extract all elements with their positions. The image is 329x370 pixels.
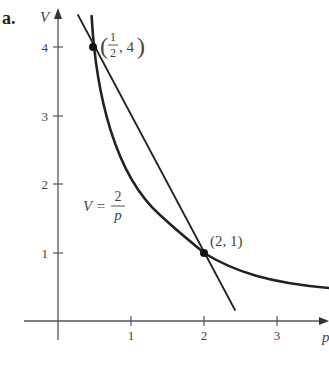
secant-line — [78, 15, 235, 310]
x-axis-label: p — [321, 329, 329, 345]
x-axis-arrow-icon — [319, 317, 329, 325]
svg-text:(: ( — [100, 33, 108, 59]
x-tick-label-3: 3 — [274, 328, 281, 343]
point-label-half-4: ( 1 2 , 4 ) — [100, 30, 145, 60]
x-tick-label-2: 2 — [201, 328, 208, 343]
curve-equation-label: V = 2 p — [83, 189, 125, 223]
point-half-4 — [89, 43, 97, 51]
svg-text:2: 2 — [110, 46, 116, 60]
y-tick-label-2: 2 — [42, 177, 49, 192]
chart: 1 2 3 1 2 3 4 V p ( 1 2 , 4 ) (2, 1) V =… — [0, 0, 329, 370]
svg-text:p: p — [113, 207, 122, 223]
y-tick-label-1: 1 — [42, 246, 49, 261]
y-axis-label: V — [40, 9, 51, 25]
point-2-1 — [200, 249, 208, 257]
axes — [24, 16, 324, 340]
svg-text:): ) — [137, 33, 145, 59]
y-tick-label-4: 4 — [42, 40, 49, 55]
y-axis-arrow-icon — [54, 8, 62, 19]
svg-text:1: 1 — [110, 30, 116, 44]
svg-text:, 4: , 4 — [119, 39, 135, 55]
svg-text:2: 2 — [115, 189, 122, 204]
svg-text:V =: V = — [83, 198, 106, 214]
x-tick-label-1: 1 — [128, 328, 135, 343]
y-tick-label-3: 3 — [42, 109, 49, 124]
point-label-2-1: (2, 1) — [210, 233, 243, 250]
